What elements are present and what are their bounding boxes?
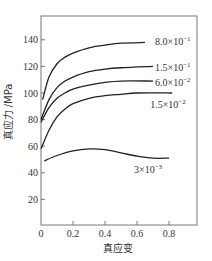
y-tick-label: 120 — [23, 61, 38, 72]
x-tick-label: 0.6 — [131, 228, 144, 239]
x-axis-label: 真应变 — [103, 242, 133, 254]
x-tick-label: 0.4 — [99, 228, 112, 239]
x-axis: 00.20.40.60.8 — [39, 221, 176, 239]
x-tick-label: 0.8 — [163, 228, 176, 239]
curve-labels: 8.0×10−11.5×10−16.0×10−21.5×10−23×10−3 — [134, 35, 191, 175]
curve-label-2: 6.0×10−2 — [155, 76, 191, 88]
y-tick-label: 20 — [28, 194, 38, 205]
curve-label-0: 8.0×10−1 — [155, 35, 191, 47]
y-axis-label: 真应力 /MPa — [2, 84, 14, 141]
curve-label-1: 1.5×10−1 — [155, 61, 191, 73]
y-tick-label: 80 — [28, 114, 38, 125]
curve-label-4: 3×10−3 — [134, 163, 163, 175]
y-tick-label: 100 — [23, 88, 38, 99]
x-tick-label: 0 — [39, 228, 44, 239]
y-tick-label: 60 — [28, 141, 38, 152]
y-tick-label: 40 — [28, 167, 38, 178]
x-tick-label: 0.2 — [67, 228, 80, 239]
y-tick-label: 140 — [23, 34, 38, 45]
stress-strain-chart: 00.20.40.60.8 20406080100120140 8.0×10−1… — [0, 0, 212, 261]
curve-series-4 — [44, 149, 169, 161]
curve-label-3: 1.5×10−2 — [150, 98, 186, 110]
